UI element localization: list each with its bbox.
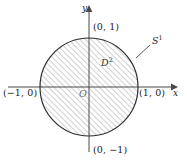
- origin-label: O: [79, 89, 87, 99]
- unit-disk-figure: y x O (0, 1) (0, −1) (−1, 0) (1, 0) D2 S…: [0, 0, 187, 168]
- x-axis-label: x: [173, 89, 178, 98]
- point-label-bottom: (0, −1): [93, 145, 127, 155]
- disk-region-label: D2: [101, 58, 113, 68]
- point-label-top: (0, 1): [93, 22, 119, 32]
- point-label-right: (1, 0): [139, 88, 165, 98]
- circle-set-exponent: 1: [159, 34, 163, 42]
- y-axis-label: y: [82, 4, 87, 13]
- set-label-leader-line: [136, 45, 150, 58]
- disk-region-exponent: 2: [109, 56, 113, 64]
- disk-region-letter: D: [101, 57, 109, 68]
- circle-set-label: S1: [152, 36, 163, 46]
- point-label-left: (−1, 0): [3, 88, 37, 98]
